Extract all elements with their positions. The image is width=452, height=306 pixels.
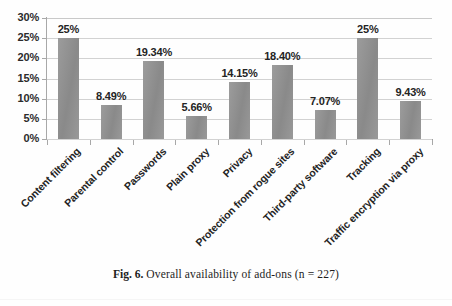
x-tick-mark: [432, 140, 433, 145]
y-tick-label: 30%: [3, 12, 39, 23]
bar-value-label: 9.43%: [381, 86, 441, 98]
bar-value-label: 5.66%: [167, 101, 227, 113]
bar: [58, 38, 79, 139]
x-tick-mark: [346, 140, 347, 145]
x-tick-mark: [175, 140, 176, 145]
bar-value-label: 25%: [38, 23, 98, 35]
x-tick-mark: [261, 140, 262, 145]
bar-chart: 0%5%10%15%20%25%30% 25%8.49%19.34%5.66%1…: [0, 0, 452, 262]
bar: [186, 116, 207, 139]
x-tick-mark: [389, 140, 390, 145]
scan-artifact: [0, 299, 452, 300]
bar-value-label: 7.07%: [295, 95, 355, 107]
x-tick-mark: [218, 140, 219, 145]
y-tick-label: 25%: [3, 32, 39, 43]
x-tick-mark: [90, 140, 91, 145]
caption-text: Overall availability of add-ons (n = 227…: [146, 268, 339, 280]
y-tick-label: 0%: [3, 133, 39, 144]
bar: [272, 65, 293, 139]
bar-value-label: 19.34%: [124, 46, 184, 58]
x-tick-mark: [47, 140, 48, 145]
bar: [400, 101, 421, 139]
bar-value-label: 25%: [338, 23, 398, 35]
gridline: [47, 139, 432, 140]
bar-value-label: 14.15%: [210, 67, 270, 79]
x-tick-mark: [304, 140, 305, 145]
bar-value-label: 8.49%: [81, 90, 141, 102]
figure-container: 0%5%10%15%20%25%30% 25%8.49%19.34%5.66%1…: [0, 0, 452, 306]
bar: [143, 61, 164, 139]
y-tick-label: 10%: [3, 93, 39, 104]
caption-number: Fig. 6.: [113, 268, 143, 280]
bar: [315, 110, 336, 139]
bar: [229, 82, 250, 139]
y-tick-label: 5%: [3, 113, 39, 124]
bar-value-label: 18.40%: [252, 50, 312, 62]
figure-caption: Fig. 6.Overall availability of add-ons (…: [0, 268, 452, 280]
y-tick-label: 20%: [3, 52, 39, 63]
x-tick-mark: [133, 140, 134, 145]
y-tick-label: 15%: [3, 73, 39, 84]
gridline: [47, 18, 432, 19]
bar: [101, 105, 122, 139]
bar: [357, 38, 378, 139]
